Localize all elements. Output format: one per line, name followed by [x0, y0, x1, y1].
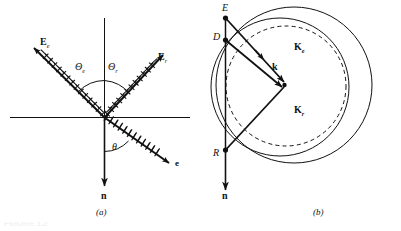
panel-a-caption: (a): [96, 207, 107, 217]
point-e-label: E: [222, 3, 228, 13]
extraordinary-wavevector-label: Ke: [294, 42, 305, 54]
cropped-caption-strip: FIGURE 1.2: [0, 222, 401, 231]
incident-angle-label: Θe: [75, 62, 85, 74]
incident-field-label: Ee: [40, 37, 49, 49]
point-e-dot: [223, 15, 228, 20]
incident-ray-group: [34, 48, 106, 118]
point-r-dot: [223, 147, 228, 152]
point-d-label: D: [213, 32, 220, 42]
panel-b-wavevector-diagram: E D R Ke k Kr n (b): [200, 0, 401, 231]
panel-a-svg: [0, 0, 200, 231]
transmitted-ray-group: [104, 113, 169, 163]
normal-vector-label-a: n: [101, 191, 107, 201]
panel-b-caption: (b): [313, 207, 324, 217]
wavevector-Ke-midarrow: [255, 50, 262, 58]
point-d-dot: [223, 37, 228, 42]
reflected-wavevector-label: Kr: [294, 105, 304, 117]
transmission-angle-label: θ: [112, 142, 117, 152]
apex-dot: [282, 83, 286, 87]
reflected-angle-label: Θr: [108, 62, 118, 74]
emergent-ray-label: e: [175, 159, 179, 168]
wavevector-label: k: [272, 62, 278, 72]
panel-a-reflection-diagram: Ee Er Θe Θr θ e n (a): [0, 0, 200, 231]
reflected-field-label: Er: [158, 52, 167, 64]
cropped-caption-text: FIGURE 1.2: [4, 222, 48, 228]
wavevector-Ke-arrow: [226, 18, 285, 82]
wavevector-Kr-arrow: [226, 87, 285, 150]
point-r-label: R: [213, 148, 219, 158]
normal-vector-label-b: n: [222, 191, 228, 201]
figure-root: Ee Er Θe Θr θ e n (a): [0, 0, 401, 231]
